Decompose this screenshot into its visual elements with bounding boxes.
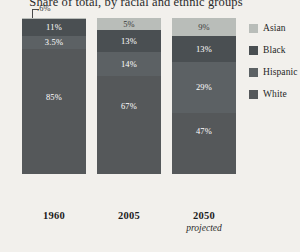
legend-swatch-hispanic — [249, 68, 258, 77]
segment-label-white-2005: 67% — [121, 102, 137, 111]
segment-label-asian-2050: 9% — [198, 23, 210, 32]
bar-group-1960[interactable]: .6% .6% 11% 3.5% 85% — [22, 18, 86, 174]
segment-black-2050[interactable]: 13% — [172, 36, 236, 62]
segment-label-white-2050: 47% — [196, 127, 212, 136]
bar-group-2050[interactable]: 9% 13% 29% 47% — [172, 18, 236, 174]
x-tick-1960: 1960 — [22, 210, 86, 221]
legend-item-asian[interactable]: Asian — [249, 22, 300, 34]
callout-leader-horizontal — [32, 9, 39, 10]
legend-swatch-white — [249, 90, 258, 99]
x-tick-label: 1960 — [22, 210, 86, 221]
legend-swatch-black — [249, 46, 258, 55]
x-tick-note: projected — [172, 223, 236, 233]
asian-callout-1960: .6% — [24, 5, 84, 18]
x-tick-2005: 2005 — [97, 210, 161, 221]
legend-item-hispanic[interactable]: Hispanic — [249, 66, 300, 78]
legend-swatch-asian — [249, 24, 258, 33]
segment-label-black-2005: 13% — [121, 37, 137, 46]
segment-label-black-2050: 13% — [196, 45, 212, 54]
segment-label-hispanic-2050: 29% — [196, 83, 212, 92]
asian-callout-label: .6% — [37, 3, 50, 13]
legend-item-white[interactable]: White — [249, 88, 300, 100]
segment-black-2005[interactable]: 13% — [97, 30, 161, 52]
segment-white-2050[interactable]: 47% — [172, 113, 236, 174]
legend-label-white: White — [263, 89, 287, 99]
stacked-bar: 9% 13% 29% 47% — [172, 18, 236, 174]
segment-hispanic-1960[interactable]: 3.5% — [22, 36, 86, 49]
segment-asian-2005[interactable]: 5% — [97, 18, 161, 30]
x-tick-label: 2050 — [172, 210, 236, 221]
legend-label-asian: Asian — [263, 23, 286, 33]
segment-label-white-1960: 85% — [46, 93, 62, 102]
segment-label-asian-2005: 5% — [123, 20, 135, 29]
segment-hispanic-2050[interactable]: 29% — [172, 62, 236, 113]
x-axis-labels: 1960 2005 2050 projected — [0, 210, 246, 250]
segment-black-1960[interactable]: 11% — [22, 19, 86, 36]
plot-area: .6% .6% 11% 3.5% 85% — [0, 18, 246, 204]
segment-asian-2050[interactable]: 9% — [172, 18, 236, 36]
stacked-bar: .6% .6% 11% 3.5% 85% — [22, 18, 86, 174]
segment-white-1960[interactable]: 85% — [22, 49, 86, 174]
bar-group-2005[interactable]: 5% 13% 14% 67% — [97, 18, 161, 174]
legend: Asian Black Hispanic White — [249, 22, 300, 110]
legend-label-black: Black — [263, 45, 286, 55]
segment-white-2005[interactable]: 67% — [97, 76, 161, 174]
callout-leader-vertical — [32, 9, 33, 18]
segment-label-black-1960: 11% — [46, 23, 62, 32]
segment-hispanic-2005[interactable]: 14% — [97, 52, 161, 76]
x-tick-label: 2005 — [97, 210, 161, 221]
stacked-bar-chart: Share of total, by racial and ethnic gro… — [0, 0, 300, 252]
legend-label-hispanic: Hispanic — [263, 67, 298, 77]
legend-item-black[interactable]: Black — [249, 44, 300, 56]
stacked-bar: 5% 13% 14% 67% — [97, 18, 161, 174]
segment-label-hispanic-2005: 14% — [121, 60, 137, 69]
segment-label-hispanic-1960: 3.5% — [45, 38, 64, 47]
x-tick-2050: 2050 projected — [172, 210, 236, 233]
